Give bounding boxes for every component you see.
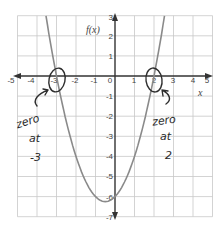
- left-annotation-line3: -3: [30, 151, 41, 164]
- x-tick: -1: [90, 76, 98, 85]
- x-tick: 1: [132, 76, 137, 85]
- right-annotation-line2: at: [160, 130, 172, 143]
- y-axis-title: f(x): [86, 24, 101, 36]
- x-tick: -4: [27, 76, 35, 85]
- right-annotation-line1: zero: [150, 113, 177, 129]
- function-graph: -5 -4 -3 -2 -1 0 1 2 3 4 5 3 2 1 -1 -2 -…: [0, 0, 224, 228]
- y-tick: 3: [109, 13, 114, 22]
- y-tick-labels: 3 2 1 -1 -2 -3 -4 -5 -6 -7: [106, 13, 114, 222]
- x-tick-labels: -5 -4 -3 -2 -1 0 1 2 3 4 5: [7, 76, 209, 85]
- right-annotation-line3: 2: [165, 149, 172, 162]
- x-tick: 0: [108, 76, 113, 85]
- y-tick: -4: [106, 152, 114, 161]
- x-axis-title: x: [197, 87, 203, 98]
- x-tick: 5: [205, 76, 210, 85]
- y-tick: -2: [106, 112, 114, 121]
- y-tick: -3: [106, 132, 114, 141]
- right-zero-annotation: zero: [150, 113, 177, 129]
- y-tick: -1: [106, 92, 114, 101]
- x-tick: 4: [191, 76, 196, 85]
- right-annotation-arrow-icon: [162, 90, 169, 104]
- y-tick: -7: [106, 213, 114, 222]
- left-annotation-line2: at: [29, 132, 41, 145]
- y-tick: 2: [109, 32, 114, 41]
- x-tick: -2: [71, 76, 79, 85]
- x-tick: 3: [171, 76, 176, 85]
- y-tick: 1: [109, 52, 114, 61]
- y-tick: -5: [106, 172, 114, 181]
- x-tick: -5: [7, 76, 15, 85]
